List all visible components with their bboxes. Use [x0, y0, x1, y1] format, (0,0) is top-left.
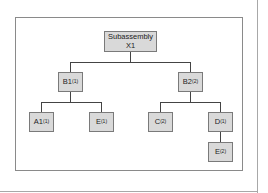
node-c: C(2) — [148, 112, 173, 132]
node-e-under-b1: E(1) — [89, 112, 114, 132]
connector-b1-children-bar — [41, 102, 102, 103]
node-root-line2: X1 — [126, 42, 135, 51]
connector-to-b1 — [70, 62, 71, 72]
connector-root-down — [130, 52, 131, 62]
node-qty: (1) — [72, 79, 78, 85]
connector-b1-down — [70, 92, 71, 102]
node-label: B2 — [183, 78, 192, 87]
node-qty: (2) — [192, 79, 198, 85]
node-qty: (1) — [101, 119, 107, 125]
node-b2: B2(2) — [178, 72, 203, 92]
node-qty: (2) — [220, 149, 226, 155]
outer-page-border-right — [257, 0, 258, 193]
node-b1: B1(1) — [58, 72, 83, 92]
connector-to-d — [220, 102, 221, 112]
node-d: D(1) — [208, 112, 233, 132]
connector-b2-children-bar — [160, 102, 221, 103]
node-qty: (1) — [220, 119, 226, 125]
connector-level1-bar — [70, 62, 191, 63]
connector-to-a1 — [41, 102, 42, 112]
connector-to-e1 — [101, 102, 102, 112]
node-qty: (1) — [43, 119, 49, 125]
node-a1: A1(1) — [29, 112, 54, 132]
node-e-under-d: E(2) — [208, 142, 233, 162]
node-label: B1 — [63, 78, 72, 87]
connector-to-c — [160, 102, 161, 112]
node-root-subassembly-x1: Subassembly X1 — [104, 31, 157, 52]
connector-d-to-e2 — [220, 132, 221, 142]
outer-page-border-bottom — [0, 191, 258, 192]
node-qty: (2) — [160, 119, 166, 125]
connector-b2-down — [190, 92, 191, 102]
connector-to-b2 — [190, 62, 191, 72]
node-label: A1 — [34, 118, 43, 127]
